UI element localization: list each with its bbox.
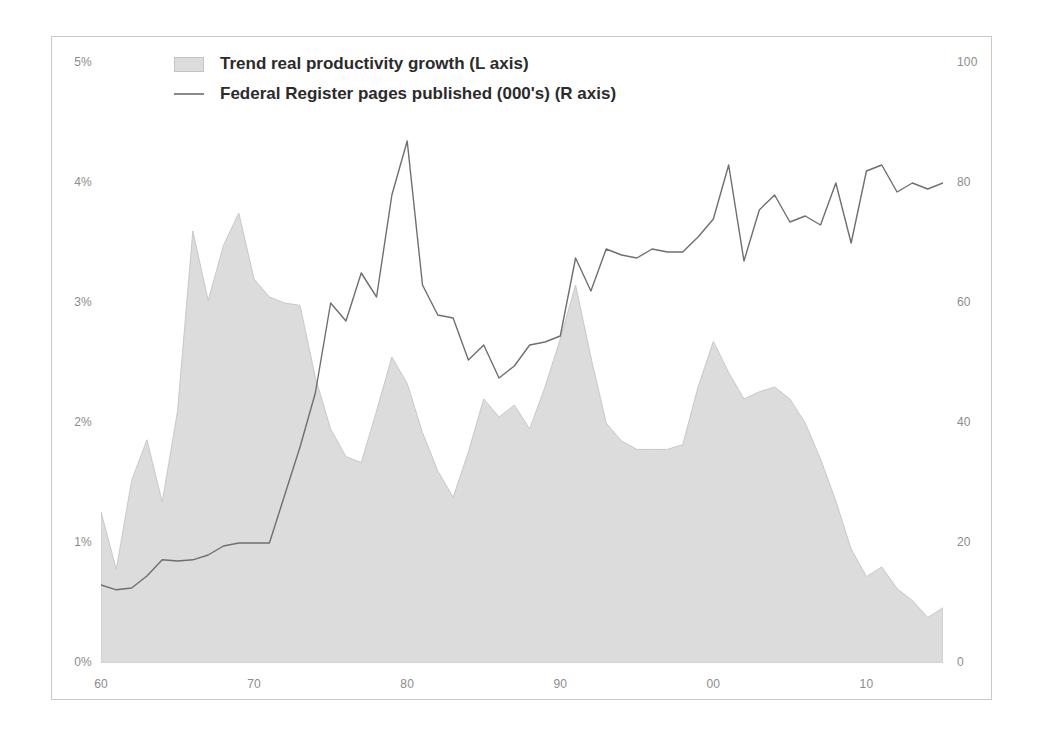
- x-axis-tick-1960: 60: [81, 677, 121, 691]
- x-axis-tick-1970: 70: [234, 677, 274, 691]
- y-axis-left-tick-4: 4%: [52, 175, 92, 189]
- y-axis-right-tick-60: 60: [957, 295, 971, 309]
- series-area-productivity: [101, 213, 943, 663]
- chart-frame: Trend real productivity growth (L axis) …: [51, 36, 992, 700]
- x-axis-tick-1980: 80: [387, 677, 427, 691]
- y-axis-left-tick-1: 1%: [52, 535, 92, 549]
- y-axis-left-tick-5: 5%: [52, 55, 92, 69]
- y-axis-right-tick-20: 20: [957, 535, 971, 549]
- x-axis-tick-2010: 10: [846, 677, 886, 691]
- x-axis-tick-2000: 00: [693, 677, 733, 691]
- y-axis-right-tick-40: 40: [957, 415, 971, 429]
- chart-screenshot: Trend real productivity growth (L axis) …: [0, 0, 1043, 731]
- y-axis-left-tick-3: 3%: [52, 295, 92, 309]
- y-axis-right-tick-0: 0: [957, 655, 964, 669]
- plot-area: [101, 63, 943, 663]
- y-axis-right-tick-80: 80: [957, 175, 971, 189]
- y-axis-right-tick-100: 100: [957, 55, 978, 69]
- chart-canvas: [101, 63, 943, 663]
- x-axis-tick-1990: 90: [540, 677, 580, 691]
- y-axis-left-tick-0: 0%: [52, 655, 92, 669]
- y-axis-left-tick-2: 2%: [52, 415, 92, 429]
